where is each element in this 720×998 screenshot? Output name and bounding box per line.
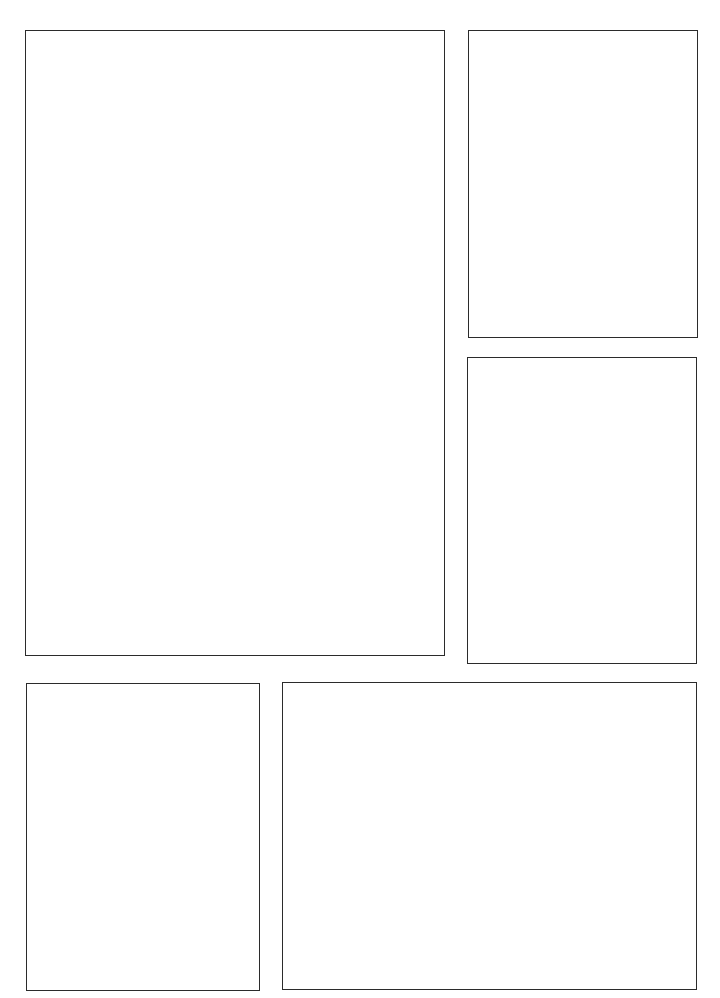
comic-page bbox=[0, 0, 720, 998]
panel-top-right bbox=[468, 30, 698, 338]
panel-bottom-right-wide bbox=[282, 682, 697, 990]
panel-large-top-left bbox=[25, 30, 445, 656]
panel-middle-right bbox=[467, 357, 697, 664]
panel-bottom-left bbox=[26, 683, 260, 991]
